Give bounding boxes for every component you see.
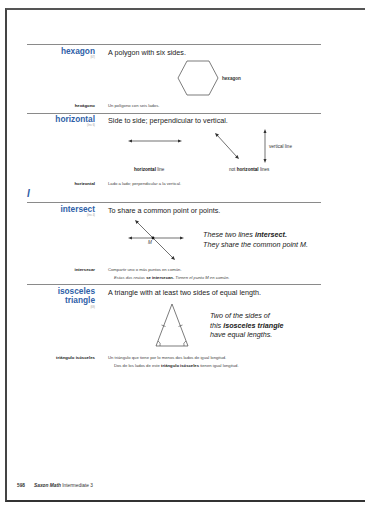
spanish-definition: Compartir uno o más puntos en común. [108,267,182,272]
example-text: tienen igual longitud. [199,363,239,368]
caption-text: this [210,321,223,330]
term-line: triangle [58,296,95,305]
spanish-term: hexágono [75,103,95,108]
definition-hexagon: A polygon with six sides. [108,48,186,57]
horizontal-line-figure [128,136,182,146]
hexagon-label: hexagon [222,76,241,81]
label-rest: lines [259,167,270,172]
spanish-definition: Un triángulo que tiene por lo menos dos … [108,355,226,360]
term-ref: (69) [90,306,95,309]
spanish-term: triángulo isósceles [56,355,95,360]
spanish-example: Dos de los lados de este triángulo isósc… [114,363,239,368]
intersecting-lines-figure [128,220,184,260]
label-rest: line [156,167,164,172]
diagonal-line-figure [215,133,239,159]
page-footer: 598Saxon Math Intermediate 3 [17,483,93,488]
term-ref: (Inv. 6) [87,124,95,127]
label-bold: horizontal [237,167,259,172]
example-text: Tienen el punto M en común. [174,275,229,280]
isosceles-caption: Two of the sides of this isosceles trian… [210,311,284,340]
isosceles-triangle-figure [154,303,190,347]
term-ref: (Inv. 4) [87,214,95,217]
book-subtitle: Intermediate 3 [61,483,93,488]
spanish-example: Estas dos rectas se intersecan. Tienen e… [114,275,229,280]
horizontal-line-label: horizontal line [134,167,164,172]
term-hexagon: hexagon [61,47,95,56]
point-m-label: M [148,240,152,245]
spanish-term: intersecar [74,267,95,272]
example-bold: triángulo isósceles [161,363,199,368]
spanish-definition: Un polígono con seis lados. [108,103,159,108]
caption-text: These two lines [203,230,255,239]
spanish-definition: Lado a lado; perpendicular a la vertical… [108,181,181,186]
label-bold: horizontal [134,167,156,172]
intersect-caption: These two lines intersect. They share th… [203,230,308,249]
definition-horizontal: Side to side; perpendicular to vertical. [108,116,228,125]
page-number: 598 [17,483,25,488]
term-intersect: intersect [60,205,95,214]
book-brand: Saxon Math [34,483,61,488]
definition-intersect: To share a common point or points. [108,206,220,215]
hexagon-figure [178,60,218,96]
caption-line: These two lines intersect. [203,230,308,240]
caption-line: Two of the sides of [210,311,284,321]
term-ref: (67) [90,56,95,59]
vertical-line-figure [262,129,268,163]
label-prefix: not [229,167,237,172]
example-bold: se intersecan. [146,275,174,280]
caption-line: this isosceles triangle [210,321,284,331]
term-isosceles-triangle: isosceles triangle [58,287,95,305]
entry-divider [27,284,321,285]
term-horizontal: horizontal [55,115,95,124]
caption-line: They share the common point M. [203,240,308,250]
entry-divider [27,44,321,45]
example-text: Estas dos rectas [114,275,146,280]
caption-line: have equal lengths. [210,330,284,340]
section-divider [27,202,321,203]
not-horizontal-lines-label: not horizontal lines [229,167,269,172]
definition-isosceles: A triangle with at least two sides of eq… [108,288,261,297]
caption-bold: isosceles triangle [223,321,283,330]
vertical-line-label: vertical line [269,144,292,149]
example-text: Dos de los lados de este [114,363,161,368]
caption-bold: intersect. [255,230,287,239]
spanish-term: horizontal [74,181,95,186]
section-letter: I [27,188,30,199]
